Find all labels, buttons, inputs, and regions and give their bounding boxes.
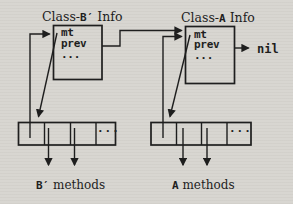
- class-a-title-suffix: Info: [226, 10, 255, 25]
- class-b-title: Class-B′ Info: [42, 8, 122, 24]
- b-methods-classname: B′: [36, 179, 49, 192]
- ellipsis-field-b: ...: [61, 50, 86, 61]
- class-b-title-suffix: Info: [93, 9, 122, 24]
- nil-label: nil: [257, 43, 279, 55]
- a-methods-classname: A: [172, 179, 179, 192]
- class-a-title-classname: A: [219, 12, 226, 25]
- class-b-fields: mt prev ...: [61, 28, 86, 60]
- a-methods-label: A methods: [172, 176, 235, 192]
- class-a-title-prefix: Class-: [181, 10, 219, 25]
- a-methods-suffix: methods: [179, 178, 235, 192]
- class-b-title-classname: B′: [80, 11, 93, 24]
- prev-pointer-b-to-a-arrow: [102, 31, 182, 47]
- diagram-wires: [0, 0, 293, 204]
- class-a-title: Class-A Info: [181, 9, 255, 25]
- figure-canvas: Class-B′ Info Class-A Info mt prev ... m…: [0, 0, 293, 204]
- class-a-fields: mt prev ...: [194, 30, 219, 62]
- mt-pointer-a-arrow: [170, 35, 190, 117]
- ellipsis-field-a: ...: [194, 51, 219, 62]
- b-methods-label: B′ methods: [36, 176, 105, 192]
- table-a-ellipsis-cell: ...: [229, 122, 249, 135]
- b-methods-suffix: methods: [49, 178, 105, 192]
- class-b-title-prefix: Class-: [42, 9, 80, 24]
- table-b-ellipsis-cell: ...: [97, 122, 115, 135]
